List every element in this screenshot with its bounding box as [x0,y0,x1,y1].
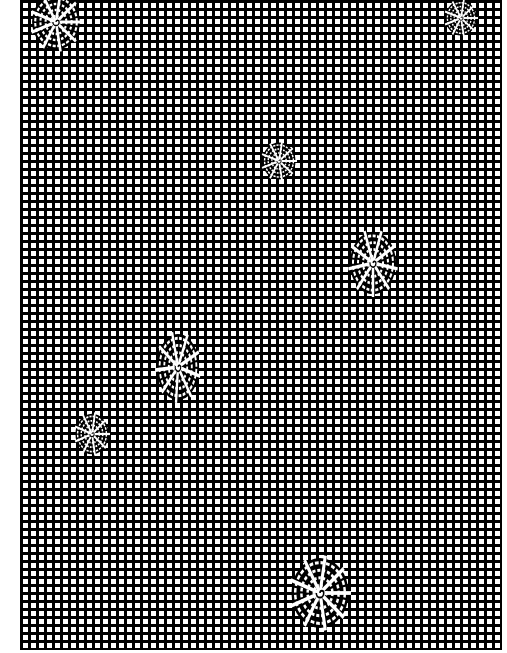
web-bottom-icon [289,555,351,631]
web-top-right-icon [444,0,478,37]
web-left-middle-icon [155,331,201,403]
web-top-left-icon [30,0,82,52]
web-lower-left-icon [74,412,110,456]
grid-pattern [20,0,502,650]
web-right-middle-icon [348,229,398,297]
web-upper-center-icon [261,141,297,181]
